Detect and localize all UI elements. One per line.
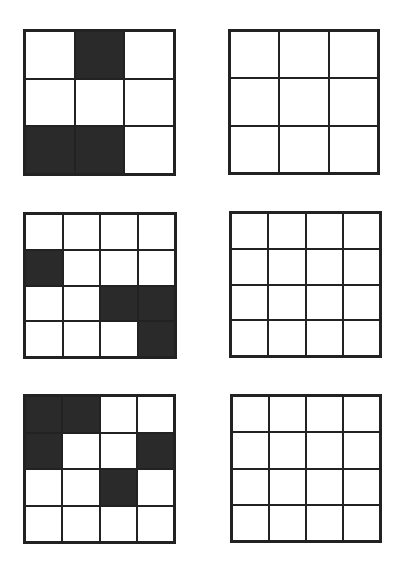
grid-cell-empty [26, 287, 62, 321]
grid-cell-empty [138, 507, 173, 542]
grid-cell-empty [101, 434, 136, 469]
grid-cell-empty[interactable] [231, 32, 278, 77]
grid-cell-empty[interactable] [344, 286, 379, 320]
grid-cell-empty[interactable] [344, 433, 379, 467]
grid-cell-empty [26, 215, 62, 249]
grid-cell-empty[interactable] [344, 397, 379, 431]
grid-cell-filled [76, 127, 124, 173]
grid-cell-empty[interactable] [232, 286, 267, 320]
grid-cell-empty [101, 251, 137, 285]
grid-cell-empty [26, 470, 61, 505]
grid-cell-empty[interactable] [330, 127, 377, 172]
grid-cell-empty[interactable] [307, 470, 342, 504]
grid-cell-empty[interactable] [330, 32, 377, 77]
grid-cell-empty[interactable] [307, 321, 342, 355]
grid-cell-empty[interactable] [330, 79, 377, 124]
grid-cell-empty [63, 434, 98, 469]
grid-cell-empty [64, 251, 100, 285]
grid-cell-filled [139, 287, 175, 321]
grid-cell-filled [139, 322, 175, 356]
grid-cell-empty[interactable] [344, 321, 379, 355]
grid-cell-filled [101, 287, 137, 321]
pattern-grid-2 [23, 212, 177, 359]
grid-cell-empty[interactable] [344, 506, 379, 540]
grid-cell-empty[interactable] [269, 321, 304, 355]
answer-grid-2[interactable] [229, 211, 382, 358]
grid-cell-empty [64, 322, 100, 356]
grid-cell-empty [125, 80, 173, 126]
grid-cell-empty [101, 507, 136, 542]
grid-cell-empty[interactable] [231, 127, 278, 172]
grid-cell-empty[interactable] [344, 470, 379, 504]
grid-cell-filled [26, 397, 61, 432]
grid-cell-empty[interactable] [307, 433, 342, 467]
grid-cell-empty [139, 251, 175, 285]
grid-cell-empty [26, 80, 74, 126]
pattern-grid-1 [23, 29, 176, 176]
grid-cell-empty[interactable] [344, 250, 379, 284]
grid-cell-empty[interactable] [270, 470, 305, 504]
grid-cell-empty[interactable] [270, 506, 305, 540]
grid-cell-empty[interactable] [232, 214, 267, 248]
grid-cell-filled [26, 127, 74, 173]
grid-cell-empty[interactable] [232, 321, 267, 355]
grid-cell-empty [101, 397, 136, 432]
grid-cell-empty [76, 80, 124, 126]
grid-cell-empty[interactable] [233, 470, 268, 504]
grid-cell-filled [26, 434, 61, 469]
grid-cell-empty[interactable] [270, 397, 305, 431]
grid-cell-empty[interactable] [280, 32, 327, 77]
grid-cell-filled [26, 251, 62, 285]
grid-cell-empty[interactable] [307, 214, 342, 248]
grid-cell-filled [76, 32, 124, 78]
answer-grid-1[interactable] [228, 29, 380, 175]
grid-cell-empty [63, 470, 98, 505]
grid-cell-empty [26, 322, 62, 356]
grid-cell-empty[interactable] [307, 250, 342, 284]
grid-cell-empty[interactable] [233, 506, 268, 540]
grid-cell-empty [26, 32, 74, 78]
pattern-grid-3 [23, 394, 176, 544]
grid-cell-empty[interactable] [269, 286, 304, 320]
grid-cell-empty [101, 322, 137, 356]
grid-cell-filled [101, 470, 136, 505]
grid-cell-empty[interactable] [280, 79, 327, 124]
grid-cell-filled [63, 397, 98, 432]
grid-cell-empty [26, 507, 61, 542]
grid-cell-empty [139, 215, 175, 249]
grid-cell-empty[interactable] [270, 433, 305, 467]
grid-cell-empty [64, 287, 100, 321]
grid-cell-empty[interactable] [307, 397, 342, 431]
grid-cell-empty[interactable] [307, 506, 342, 540]
grid-cell-empty[interactable] [231, 79, 278, 124]
grid-cell-empty[interactable] [233, 397, 268, 431]
grid-cell-empty [64, 215, 100, 249]
grid-cell-empty[interactable] [307, 286, 342, 320]
grid-cell-filled [138, 434, 173, 469]
grid-cell-empty[interactable] [280, 127, 327, 172]
grid-cell-empty [125, 127, 173, 173]
grid-cell-empty[interactable] [344, 214, 379, 248]
grid-cell-empty[interactable] [269, 214, 304, 248]
grid-cell-empty [101, 215, 137, 249]
grid-cell-empty[interactable] [233, 433, 268, 467]
answer-grid-3[interactable] [230, 394, 382, 543]
grid-cell-empty [63, 507, 98, 542]
grid-cell-empty [125, 32, 173, 78]
grid-cell-empty [138, 470, 173, 505]
grid-cell-empty[interactable] [269, 250, 304, 284]
grid-cell-empty[interactable] [232, 250, 267, 284]
grid-cell-empty [138, 397, 173, 432]
